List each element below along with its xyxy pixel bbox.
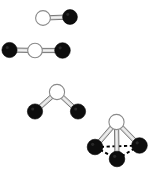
black-atom-body (55, 43, 71, 59)
trigonal-pyramidal-model (87, 114, 147, 166)
black-atom (27, 104, 42, 119)
black-atom-highlight (31, 107, 34, 110)
black-atom (109, 151, 125, 167)
white-atom (28, 43, 43, 58)
black-atom-highlight (59, 46, 62, 49)
black-atom-body (27, 104, 42, 119)
bent-triatomic-model (27, 84, 85, 119)
white-atom (49, 84, 64, 99)
molecule-canvas (0, 0, 154, 177)
black-atom-highlight (74, 107, 77, 110)
linear-triatomic-model (2, 42, 70, 58)
black-atom (63, 10, 78, 25)
black-atom-body (132, 138, 148, 154)
black-atom-highlight (113, 155, 116, 158)
molecular-models-figure (0, 0, 154, 177)
diatomic-linear-model (36, 10, 78, 26)
black-atom-highlight (136, 141, 139, 144)
white-atom-highlight (37, 12, 44, 19)
black-atom (2, 42, 17, 57)
white-atom-highlight (29, 45, 36, 52)
black-atom (70, 104, 85, 119)
black-atom-highlight (66, 13, 69, 16)
black-atom (132, 138, 148, 154)
black-atom-body (70, 104, 85, 119)
black-atom (55, 43, 71, 59)
black-atom-body (109, 151, 125, 167)
black-atom (87, 139, 103, 155)
white-atom (36, 11, 51, 26)
black-atom-highlight (91, 143, 94, 146)
black-atom-body (87, 139, 103, 155)
black-atom-highlight (6, 46, 9, 49)
white-atom-highlight (51, 86, 59, 94)
black-atom-body (63, 10, 78, 25)
black-atom-body (2, 42, 17, 57)
white-atom (109, 114, 124, 129)
white-atom-highlight (111, 116, 119, 124)
